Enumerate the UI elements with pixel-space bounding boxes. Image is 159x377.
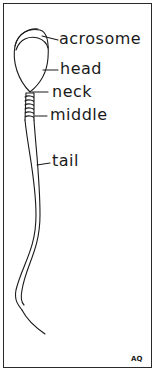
tail-outer [15,120,36,310]
tail-inner [21,120,40,305]
leader-acrosome [42,36,58,40]
artist-signature: AQ [131,355,142,363]
sperm-cell-drawing [0,0,159,377]
label-neck: neck [52,84,92,100]
tail-end [22,310,45,334]
label-acrosome: acrosome [59,31,141,47]
middle-piece [25,93,34,120]
label-middle: middle [50,107,108,123]
leader-tail [37,163,50,165]
head-outline [14,30,48,92]
label-head: head [60,61,102,77]
label-tail: tail [52,153,79,169]
